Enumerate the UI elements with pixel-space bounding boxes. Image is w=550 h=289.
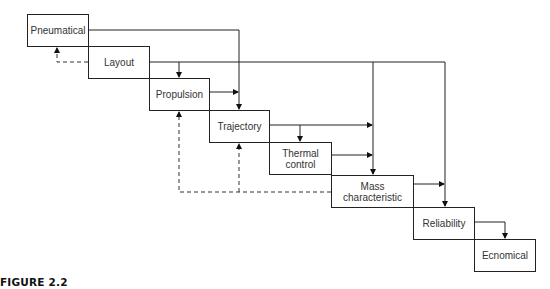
node-economical: Ecnomical <box>474 239 536 272</box>
node-trajectory: Trajectory <box>209 110 270 143</box>
node-label: Layout <box>104 57 134 68</box>
node-label: Thermal control <box>276 148 325 170</box>
node-label: Ecnomical <box>482 250 528 261</box>
node-propulsion: Propulsion <box>149 78 210 111</box>
node-layout: Layout <box>88 46 150 79</box>
node-label: Trajectory <box>217 121 261 132</box>
node-pneumatical: Pneumatical <box>27 14 89 47</box>
dashed-edge-layout-pneumatical <box>57 48 88 62</box>
node-label: Propulsion <box>156 89 203 100</box>
edge-reliability-economical <box>474 222 505 238</box>
node-label: Reliability <box>423 218 466 229</box>
node-label: Pneumatical <box>30 25 85 36</box>
node-thermal: Thermal control <box>269 142 332 175</box>
figure-caption: FIGURE 2.2 <box>0 276 68 288</box>
node-mass: Mass characteristic <box>331 175 414 208</box>
node-reliability: Reliability <box>413 207 475 240</box>
node-label: Mass characteristic <box>340 181 405 203</box>
